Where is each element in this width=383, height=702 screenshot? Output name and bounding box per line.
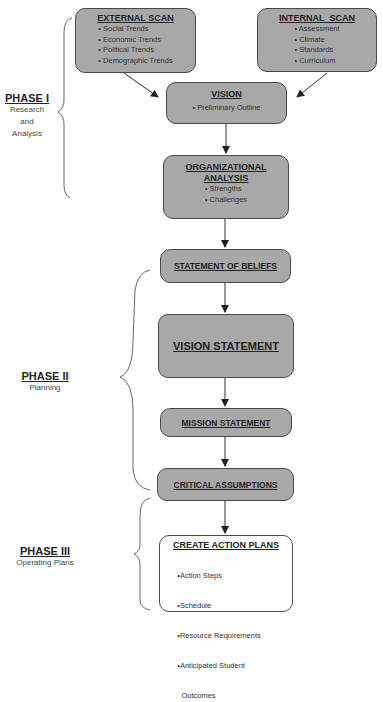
phase-1-sub: Analysis <box>2 128 52 140</box>
external-scan-items: • Social Trends • Economic Trends • Poli… <box>98 24 172 66</box>
phase-3-label: PHASE III Operating Plans <box>10 545 80 569</box>
vision-statement-box: VISION STATEMENT <box>158 314 294 378</box>
list-item: • Economic Trends <box>98 35 172 46</box>
list-item: • Assessment <box>294 24 339 35</box>
list-item: •Schedule <box>177 601 261 611</box>
action-plans-title: CREATE ACTION PLANS <box>160 540 292 551</box>
create-action-plans-box: CREATE ACTION PLANS •Action Steps •Sched… <box>159 535 293 612</box>
list-item: • Preliminary Outline <box>167 103 286 114</box>
org-analysis-title: ANALYSIS <box>164 173 288 184</box>
vision-statement-title: VISION STATEMENT <box>159 340 293 353</box>
org-analysis-title: ORGANIZATIONAL <box>164 162 288 173</box>
critical-assumptions-box: CRITICAL ASSUMPTIONS <box>157 468 294 501</box>
list-item: • Social Trends <box>98 24 172 35</box>
phase-3-sub: Operating Plans <box>10 557 80 569</box>
phase-3-title: PHASE III <box>10 545 80 557</box>
list-item: • Standards <box>294 45 339 56</box>
phase-1-label: PHASE I Research and Analysis <box>2 92 52 140</box>
list-item: •Anticipated Student <box>177 661 261 671</box>
vision-title: VISION <box>167 89 286 100</box>
mission-statement-box: MISSION STATEMENT <box>160 408 292 437</box>
phase-2-label: PHASE II Planning <box>15 370 75 394</box>
list-item: • Demographic Trends <box>98 56 172 67</box>
action-plans-items: •Action Steps •Schedule •Resource Requir… <box>177 551 261 702</box>
external-scan-title: EXTERNAL SCAN <box>76 13 195 24</box>
list-item: • Challenges <box>205 195 247 206</box>
phase-1-sub: Research <box>2 104 52 116</box>
list-item: • Climate <box>294 35 339 46</box>
statement-of-beliefs-box: STATEMENT OF BELIEFS <box>160 249 291 283</box>
phase-2-sub: Planning <box>15 382 75 394</box>
list-item: • Curriculum <box>294 56 339 67</box>
list-item: • Strengths <box>205 184 247 195</box>
list-item: •Action Steps <box>177 571 261 581</box>
assumptions-title: CRITICAL ASSUMPTIONS <box>158 480 293 491</box>
phase-braces <box>58 18 150 610</box>
internal-scan-box: INTERNAL SCAN • Assessment • Climate • S… <box>257 8 377 72</box>
list-item: Outcomes <box>177 691 261 701</box>
phase-1-sub: and <box>2 116 52 128</box>
org-analysis-items: • Strengths • Challenges <box>205 184 247 205</box>
phase-2-title: PHASE II <box>15 370 75 382</box>
vision-box: VISION • Preliminary Outline <box>166 82 287 124</box>
list-item: • Political Trends <box>98 45 172 56</box>
mission-title: MISSION STATEMENT <box>161 418 291 429</box>
beliefs-title: STATEMENT OF BELIEFS <box>161 261 290 272</box>
org-analysis-box: ORGANIZATIONAL ANALYSIS • Strengths • Ch… <box>163 155 289 219</box>
list-item: •Resource Requirements <box>177 631 261 641</box>
external-scan-box: EXTERNAL SCAN • Social Trends • Economic… <box>75 8 196 73</box>
internal-scan-title: INTERNAL SCAN <box>258 13 376 24</box>
internal-scan-items: • Assessment • Climate • Standards • Cur… <box>294 24 339 66</box>
phase-1-title: PHASE I <box>2 92 52 104</box>
